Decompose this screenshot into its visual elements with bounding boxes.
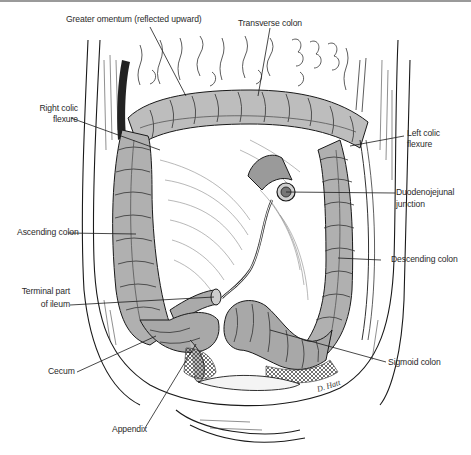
descending-colon xyxy=(300,140,355,360)
label-ascending-colon: Ascending colon xyxy=(17,227,79,238)
ascending-colon xyxy=(113,130,172,345)
mesentery xyxy=(160,140,308,300)
mesenteric-vessel xyxy=(222,200,272,298)
label-cecum: Cecum xyxy=(48,366,75,377)
label-left-colic-flexure-line2: flexure xyxy=(407,139,432,150)
label-descending-colon: Descending colon xyxy=(391,254,458,265)
label-greater-omentum: Greater omentum (reflected upward) xyxy=(66,14,202,25)
duodenojejunal-junction xyxy=(248,155,295,201)
dark-wall-shadow xyxy=(117,60,130,140)
label-duodenojejunal-line2: junction xyxy=(396,199,425,210)
pelvic-fat-left xyxy=(184,348,216,379)
label-right-colic-flexure-line2: flexure xyxy=(36,114,78,125)
label-right-colic-flexure-line1: Right colic xyxy=(36,103,78,114)
label-transverse-colon: Transverse colon xyxy=(238,18,302,29)
transverse-colon xyxy=(128,90,368,148)
label-left-colic-flexure-line1: Left colic xyxy=(407,128,440,139)
label-terminal-ileum-line1: Terminal part xyxy=(14,286,70,297)
retroperitoneal-band xyxy=(360,140,369,340)
label-sigmoid-colon: Sigmoid colon xyxy=(388,357,441,368)
label-appendix: Appendix xyxy=(112,424,147,435)
label-terminal-ileum-line2: of ileum xyxy=(14,299,70,310)
label-duodenojejunal-line1: Duodenojejunal xyxy=(396,187,454,198)
